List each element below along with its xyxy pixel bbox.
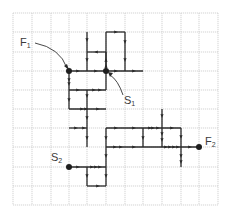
arrow-down-icon (179, 160, 182, 164)
arrow-down-icon (104, 174, 107, 178)
arrow-right-icon (168, 145, 172, 148)
arrow-down-icon (85, 58, 88, 62)
node-s2 (66, 164, 72, 170)
arrow-right-icon (76, 88, 80, 91)
arrow-right-icon (170, 126, 174, 129)
arrow-down-icon (85, 174, 88, 178)
arrow-right-icon (172, 145, 176, 148)
arrow-up-icon (104, 58, 107, 62)
arrow-right-icon (114, 126, 118, 129)
arrow-right-icon (156, 126, 160, 129)
arrow-right-icon (114, 30, 118, 33)
arrow-right-icon (96, 184, 100, 187)
arrow-left-icon (94, 50, 98, 53)
arrow-down-icon (104, 136, 107, 140)
arrow-right-icon (114, 69, 118, 72)
node-s1 (103, 68, 109, 74)
arrow-right-icon (74, 126, 78, 129)
arrow-down-icon (141, 136, 144, 140)
arrow-down-icon (85, 94, 88, 98)
label-s1: S1 (124, 95, 135, 107)
node-f1 (66, 68, 72, 74)
arrow-down-icon (67, 98, 70, 102)
arrow-down-icon (160, 132, 163, 136)
arrow-right-icon (80, 107, 84, 110)
arrow-right-icon (76, 69, 80, 72)
arrow-right-icon (151, 126, 155, 129)
arrow-down-icon (179, 135, 182, 139)
pointer-s1 (110, 75, 123, 95)
arrow-right-icon (164, 145, 168, 148)
arrow-right-icon (92, 88, 96, 91)
arrow-right-icon (82, 126, 86, 129)
arrow-right-icon (132, 69, 136, 72)
arrow-down-icon (160, 114, 163, 118)
arrow-right-icon (113, 145, 117, 148)
arrow-right-icon (119, 145, 123, 148)
arrow-down-icon (123, 40, 126, 44)
arrow-right-icon (94, 69, 98, 72)
label-pointers (35, 43, 123, 95)
arrow-right-icon (98, 88, 102, 91)
arrow-right-icon (176, 145, 180, 148)
arrow-right-icon (132, 145, 136, 148)
arrow-down-icon (179, 154, 182, 158)
background-grid (13, 13, 218, 205)
arrow-down-icon (85, 136, 88, 140)
label-f1: F1 (20, 37, 31, 49)
arrow-down-icon (85, 38, 88, 42)
arrow-right-icon (90, 165, 94, 168)
arrow-up-icon (104, 64, 107, 68)
label-s2: S2 (51, 152, 62, 164)
arrow-right-icon (76, 165, 80, 168)
label-f2: F2 (205, 136, 216, 148)
arrow-right-icon (188, 145, 192, 148)
arrow-right-icon (132, 126, 136, 129)
arrow-right-icon (98, 165, 102, 168)
arrow-down-icon (160, 138, 163, 142)
arrow-right-icon (96, 107, 100, 110)
arrow-down-icon (67, 78, 70, 82)
arrow-down-icon (104, 154, 107, 158)
arrow-down-icon (67, 82, 70, 86)
arrow-down-icon (85, 116, 88, 120)
arrow-right-icon (94, 165, 98, 168)
node-f2 (196, 144, 202, 150)
grid-path-diagram (0, 0, 230, 216)
arrow-down-icon (123, 58, 126, 62)
